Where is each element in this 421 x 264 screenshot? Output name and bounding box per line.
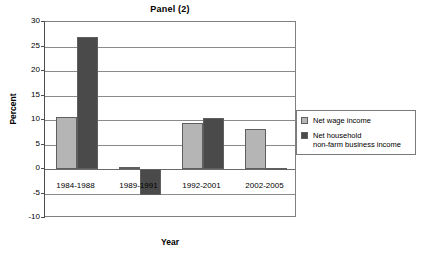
y-axis-tick — [41, 70, 45, 71]
y-axis-labels: 302520151050-5-10 — [0, 0, 40, 264]
legend-item-label: Net wage income — [313, 116, 371, 125]
y-axis-tick-label: 15 — [6, 91, 40, 99]
chart-legend: Net wage incomeNet household non-farm bu… — [296, 110, 416, 155]
bar — [56, 117, 77, 169]
y-axis-tick — [41, 119, 45, 120]
x-axis-labels: 1984-19881989-19911992-20012002-2005 — [44, 180, 296, 194]
y-axis-tick-label: 20 — [6, 66, 40, 74]
y-axis-tick — [41, 144, 45, 145]
chart-title: Panel (2) — [40, 4, 300, 14]
y-axis-tick-label: 0 — [6, 164, 40, 172]
bar — [77, 37, 98, 169]
x-axis-tick-label: 2002-2005 — [233, 180, 296, 194]
legend-item: Net household non-farm business income — [301, 131, 410, 149]
y-axis-tick — [41, 46, 45, 47]
bar — [203, 118, 224, 169]
legend-item: Net wage income — [301, 116, 410, 125]
x-axis-tick-label: 1989-1991 — [107, 180, 170, 194]
bar — [119, 167, 140, 169]
x-axis-tick-label: 1984-1988 — [44, 180, 107, 194]
y-axis-tick-label: 25 — [6, 42, 40, 50]
bar — [245, 129, 266, 169]
chart-figure: Panel (2) Percent 302520151050-5-10 1984… — [0, 0, 421, 264]
legend-item-label: Net household non-farm business income — [313, 131, 401, 149]
legend-swatch-icon — [301, 132, 308, 139]
bar — [182, 123, 203, 169]
y-axis-tick-label: -10 — [6, 213, 40, 221]
y-axis-tick — [41, 21, 45, 22]
legend-swatch-icon — [301, 117, 308, 124]
y-axis-tick-label: 10 — [6, 115, 40, 123]
y-axis-tick-label: 30 — [6, 17, 40, 25]
y-axis-tick — [41, 95, 45, 96]
x-axis-tick-label: 1992-2001 — [170, 180, 233, 194]
x-axis-title: Year — [44, 237, 296, 247]
y-axis-tick — [41, 217, 45, 218]
bar — [266, 168, 287, 170]
y-axis-tick-label: -5 — [6, 189, 40, 197]
y-axis-tick — [41, 168, 45, 169]
y-axis-tick-label: 5 — [6, 140, 40, 148]
